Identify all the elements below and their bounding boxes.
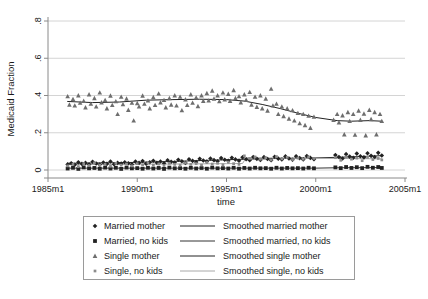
data-point [238,163,241,166]
data-point [104,163,107,166]
legend-label-smoothed-single-mother: Smoothed single mother [223,251,321,261]
x-tick-label-2000m1: 2000m1 [299,184,332,194]
x-tick-label-1985m1: 1985m1 [32,184,65,194]
data-point [194,167,198,171]
data-point [355,165,359,169]
data-point [253,166,257,170]
data-point [248,157,251,160]
data-point [221,166,225,170]
data-point [307,166,311,170]
data-point [372,158,375,161]
data-point [361,159,364,162]
y-tick-label-.4: .4 [33,92,43,100]
data-point [366,165,370,169]
data-point [334,156,337,159]
data-point [120,164,123,167]
data-point [345,156,348,159]
legend-label-single-no-kids: Single, no kids [104,266,163,276]
data-point [350,166,354,170]
data-point [275,155,278,158]
data-point [151,167,155,171]
data-point [205,167,209,171]
data-point [259,158,262,161]
data-point [227,161,230,164]
data-point [184,167,188,171]
y-tick-label-.2: .2 [33,129,43,137]
data-point [360,166,364,170]
data-point [189,163,192,166]
data-point [355,157,358,160]
data-point [297,157,300,160]
data-point [313,157,316,160]
data-point [98,167,102,171]
y-tick-label-.8: .8 [33,17,43,25]
y-axis-title: Medicaid Fraction [5,62,16,137]
data-point [114,162,117,165]
data-point [210,166,214,170]
data-point [125,166,129,170]
data-point [119,167,123,171]
data-point [280,167,284,171]
data-point [157,163,160,166]
data-point [259,166,263,170]
data-point [147,162,150,165]
data-point [211,163,214,166]
data-point [269,167,273,171]
data-point [264,166,268,170]
data-point [270,159,273,162]
x-tick-label-1990m1: 1990m1 [121,184,154,194]
data-point [339,159,342,162]
data-point [200,164,203,167]
data-point [72,163,75,166]
data-point [200,166,204,170]
data-point [243,154,246,157]
data-point [77,165,80,168]
data-point [286,156,289,159]
data-point [254,156,257,159]
data-point [87,166,91,170]
data-point [275,166,279,170]
data-point [307,156,310,159]
data-point [344,165,348,169]
data-point [146,166,150,170]
data-point [216,162,219,165]
data-point [135,166,139,170]
legend-label-married-mother: Married mother [104,221,165,231]
data-point [173,166,177,170]
data-point [302,158,305,161]
data-point [141,167,145,171]
data-point [131,165,134,168]
data-point [93,166,97,170]
data-point [88,164,91,167]
y-tick-label-0: 0 [33,167,43,172]
data-point [195,162,198,165]
data-point [114,166,118,170]
legend-label-smoothed-married-no-kids: Smoothed married, no kids [223,236,331,246]
data-point [82,162,85,165]
data-point [242,166,246,170]
data-point [339,166,343,170]
data-point [264,156,267,159]
data-point [333,165,337,169]
data-point [103,166,107,170]
legend-label-single-mother: Single mother [104,251,160,261]
medicaid-fraction-scatter-chart: 0.2.4.6.8 1985m11990m11995m12000m12005m1… [0,0,428,299]
legend-label-married-no-kids: Married, no kids [104,236,169,246]
legend-marker-single-no-kids [94,270,97,273]
data-point [206,161,209,164]
data-point [66,165,69,168]
data-point [184,162,187,165]
data-point [280,157,283,160]
data-point [380,166,384,170]
figure-container: 0.2.4.6.8 1985m11990m11995m12000m12005m1… [0,0,428,299]
data-point [371,166,375,170]
data-point [285,166,289,170]
data-point [312,166,316,170]
data-point [82,165,86,169]
x-tick-label-2005m1: 2005m1 [389,184,422,194]
y-tick-label-.6: .6 [33,54,43,62]
data-point [380,159,383,162]
data-point [232,166,236,170]
x-axis-title: time [217,196,235,207]
data-point [162,167,166,171]
